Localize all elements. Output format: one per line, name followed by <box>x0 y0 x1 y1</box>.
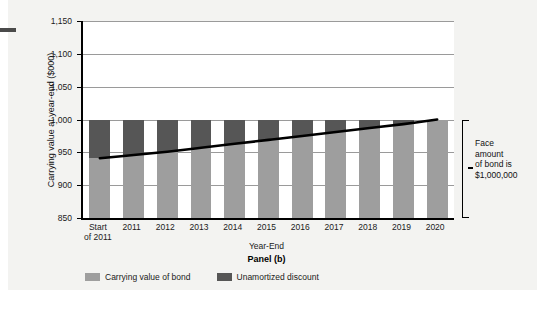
x-axis-tick-label: 2015 <box>257 222 276 232</box>
x-axis-tick-label: 2014 <box>223 222 242 232</box>
annotation-line-1: Face <box>475 138 541 149</box>
legend-swatch-unamortized-discount <box>217 273 232 281</box>
legend-item-unamortized-discount: Unamortized discount <box>217 272 319 282</box>
y-axis-tick-label: 900 <box>36 180 72 190</box>
x-axis-tick-label-line: 2013 <box>190 222 209 232</box>
chart-legend: Carrying value of bond Unamortized disco… <box>85 272 319 282</box>
x-axis-tick-label: 2016 <box>291 222 310 232</box>
x-axis-tick-label-line: 2020 <box>426 222 445 232</box>
y-axis-tick-label: 1,050 <box>36 82 72 92</box>
x-axis-tick-label: 2018 <box>358 222 377 232</box>
x-axis-tick-label: 2011 <box>122 222 140 232</box>
y-axis-tick-label: 850 <box>36 213 72 223</box>
x-axis-tick-label-line: 2019 <box>392 222 411 232</box>
x-axis-tick-label-line: 2018 <box>358 222 377 232</box>
face-amount-annotation: Face amount of bond is $1,000,000 <box>475 138 541 180</box>
y-axis-tick-label: 1,150 <box>36 16 72 26</box>
face-amount-bracket-pointer <box>468 167 473 169</box>
legend-item-carrying-value: Carrying value of bond <box>85 272 191 282</box>
y-axis-tick-label: 950 <box>36 147 72 157</box>
carrying-value-curve <box>83 21 454 218</box>
panel-title: Panel (b) <box>81 254 452 264</box>
x-axis-tick-label-line: 2015 <box>257 222 276 232</box>
x-axis-tick-label: 2012 <box>156 222 175 232</box>
annotation-line-3: of bond is <box>475 159 541 170</box>
x-axis-tick-label: 2020 <box>426 222 445 232</box>
y-axis-tick <box>77 218 83 219</box>
x-axis-tick-label: 2017 <box>324 222 343 232</box>
legend-label-unamortized-discount: Unamortized discount <box>237 272 319 282</box>
x-axis-tick-label: Startof 2011 <box>84 222 112 242</box>
x-axis-tick-label-line: 2014 <box>223 222 242 232</box>
x-axis-title: Year-End <box>81 241 452 251</box>
x-axis-tick-label-line: 2016 <box>291 222 310 232</box>
annotation-line-2: amount <box>475 149 541 160</box>
figure-container: Carrying value at year-end ($000) 850900… <box>0 0 545 310</box>
x-axis-tick-label: 2019 <box>392 222 411 232</box>
y-axis-tick-label: 1,000 <box>36 115 72 125</box>
plot-area: Carrying value at year-end ($000) <box>81 21 454 220</box>
x-axis-tick-label-line: Start <box>84 222 112 232</box>
x-axis-tick-label-line: 2012 <box>156 222 175 232</box>
x-axis-tick-label-line: 2017 <box>324 222 343 232</box>
y-axis-tick-label: 1,100 <box>36 49 72 59</box>
face-amount-bracket <box>462 120 469 218</box>
legend-swatch-carrying-value <box>85 273 100 281</box>
carrying-value-line <box>100 120 437 159</box>
page-edge-mark <box>0 28 16 32</box>
annotation-line-4: $1,000,000 <box>475 170 541 181</box>
legend-label-carrying-value: Carrying value of bond <box>105 272 191 282</box>
x-axis-tick-label: 2013 <box>190 222 209 232</box>
x-axis-tick-label-line: 2011 <box>122 222 140 232</box>
